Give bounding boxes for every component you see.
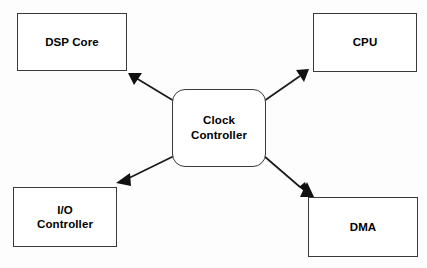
- node-io-controller-label: I/O Controller: [37, 203, 93, 232]
- edge-clock-to-dma: [264, 156, 314, 197]
- node-cpu-label: CPU: [353, 35, 378, 49]
- diagram-canvas: DSP Core CPU I/O Controller DMA Clock Co…: [0, 0, 427, 268]
- node-clock-controller[interactable]: Clock Controller: [172, 89, 266, 167]
- node-dma-label: DMA: [350, 220, 377, 234]
- node-dsp-core-label: DSP Core: [45, 35, 99, 49]
- edge-clock-to-cpu: [264, 69, 309, 101]
- node-dma[interactable]: DMA: [308, 197, 418, 257]
- node-io-controller[interactable]: I/O Controller: [13, 187, 117, 247]
- edge-clock-to-dsp-core: [128, 73, 174, 101]
- node-clock-controller-label: Clock Controller: [191, 113, 247, 143]
- edge-clock-to-io-controller: [116, 156, 174, 186]
- node-cpu[interactable]: CPU: [313, 13, 417, 72]
- node-dsp-core[interactable]: DSP Core: [17, 13, 127, 71]
